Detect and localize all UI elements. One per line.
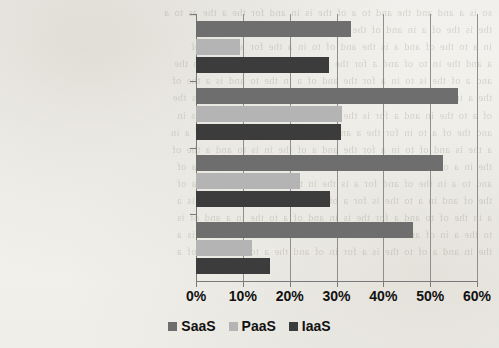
bar-iaas — [196, 191, 330, 207]
bar-iaas — [196, 124, 341, 140]
legend-swatch-icon — [289, 322, 298, 331]
bar-saas — [196, 155, 443, 171]
x-axis-tick-label: 20% — [276, 288, 304, 304]
bar-iaas — [196, 258, 270, 274]
legend-swatch-icon — [168, 322, 177, 331]
legend-item-paas[interactable]: PaaS — [229, 318, 276, 334]
plot-area — [196, 14, 477, 281]
x-axis-tick — [196, 281, 197, 287]
x-axis-tick — [430, 281, 431, 287]
legend-swatch-icon — [229, 322, 238, 331]
bar-group — [196, 21, 477, 73]
bar-saas — [196, 88, 458, 104]
gridline — [477, 14, 478, 281]
x-axis-tick-label: 0% — [186, 288, 206, 304]
chart-legend: SaaSPaaSIaaS — [0, 318, 499, 334]
x-axis-tick — [383, 281, 384, 287]
x-axis-tick-label: 60% — [463, 288, 491, 304]
bar-chart-figure: CorporationMedium-sized enterpriseSmall-… — [0, 0, 499, 348]
bar-paas — [196, 39, 240, 55]
bar-group — [196, 222, 477, 274]
legend-label: SaaS — [181, 318, 215, 334]
bar-iaas — [196, 57, 329, 73]
x-axis-tick-label: 30% — [322, 288, 350, 304]
x-axis-tick — [243, 281, 244, 287]
legend-label: PaaS — [242, 318, 276, 334]
bar-group — [196, 155, 477, 207]
legend-label: IaaS — [302, 318, 331, 334]
bar-saas — [196, 222, 413, 238]
bar-saas — [196, 21, 351, 37]
x-axis-tick — [290, 281, 291, 287]
bar-group — [196, 88, 477, 140]
x-axis-tick — [337, 281, 338, 287]
x-axis-tick-label: 10% — [229, 288, 257, 304]
legend-item-saas[interactable]: SaaS — [168, 318, 215, 334]
bar-paas — [196, 173, 300, 189]
x-axis-tick-label: 40% — [369, 288, 397, 304]
bar-paas — [196, 106, 342, 122]
x-axis-tick-label: 50% — [416, 288, 444, 304]
bar-paas — [196, 240, 252, 256]
x-axis-tick — [477, 281, 478, 287]
legend-item-iaas[interactable]: IaaS — [289, 318, 331, 334]
